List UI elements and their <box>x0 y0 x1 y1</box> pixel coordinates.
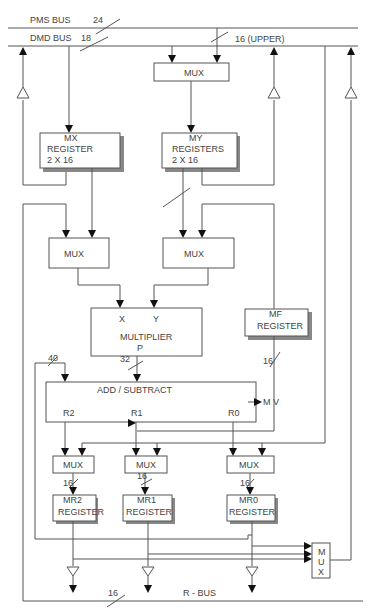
svg-text:MR0: MR0 <box>239 495 258 505</box>
dmd-bus: DMD BUS 18 16 (UPPER) <box>8 32 358 51</box>
svg-text:Y: Y <box>153 314 159 324</box>
dmd-bus-label: DMD BUS <box>30 33 72 43</box>
svg-text:M: M <box>318 547 326 557</box>
svg-text:MF: MF <box>269 309 282 319</box>
dmd-bus-width: 18 <box>81 33 91 43</box>
svg-text:X: X <box>119 314 125 324</box>
svg-text:M V: M V <box>263 397 279 407</box>
my-register: MY REGISTERS 2 X 16 <box>162 133 240 172</box>
svg-text:MUX: MUX <box>63 460 83 470</box>
svg-text:32: 32 <box>120 354 130 364</box>
mr0-register: MR0 REGISTER <box>227 495 278 524</box>
pms-bus-label: PMS BUS <box>30 15 71 25</box>
upper-label: 16 (UPPER) <box>235 34 285 44</box>
svg-text:16: 16 <box>137 471 147 481</box>
mr2-register: MR2 REGISTER <box>53 495 105 524</box>
svg-text:P: P <box>137 343 143 353</box>
svg-text:REGISTERS: REGISTERS <box>172 144 224 154</box>
svg-text:REGISTER: REGISTER <box>257 321 304 331</box>
mr1-register: MR1 REGISTER <box>123 495 175 524</box>
svg-text:X: X <box>318 567 324 577</box>
pms-bus: PMS BUS 24 <box>8 15 358 34</box>
svg-text:MUX: MUX <box>64 249 84 259</box>
svg-text:MX: MX <box>64 133 78 143</box>
svg-text:R0: R0 <box>228 408 240 418</box>
svg-text:REGISTER: REGISTER <box>126 507 173 517</box>
mf-register: MF REGISTER <box>245 309 312 340</box>
svg-text:MUX: MUX <box>239 460 259 470</box>
mux-y: MUX <box>163 238 234 268</box>
mux-x: MUX <box>49 238 109 268</box>
top-mux: MUX <box>154 63 229 81</box>
multiplier: X Y MULTIPLIER P <box>91 308 202 356</box>
svg-text:MY: MY <box>189 133 203 143</box>
svg-text:16: 16 <box>108 588 118 598</box>
arrow-up-icon <box>19 47 27 55</box>
svg-text:R1: R1 <box>131 408 143 418</box>
mux-mr2: MUX <box>53 456 94 473</box>
svg-text:REGISTER: REGISTER <box>58 507 105 517</box>
svg-text:R2: R2 <box>63 408 75 418</box>
add-subtract: ADD / SUBTRACT R2 R1 R0 M V <box>46 382 279 422</box>
svg-text:MUX: MUX <box>184 68 204 78</box>
mac-block-diagram: PMS BUS 24 DMD BUS 18 16 (UPPER) MUX MX … <box>0 0 374 614</box>
pms-bus-width: 24 <box>93 15 103 25</box>
svg-text:16: 16 <box>240 478 250 488</box>
svg-text:MULTIPLIER: MULTIPLIER <box>120 332 173 342</box>
svg-text:16: 16 <box>63 478 73 488</box>
mux-mr0: MUX <box>227 456 274 473</box>
arrow-down-icon <box>65 125 73 133</box>
svg-text:U: U <box>318 557 325 567</box>
svg-text:2 X 16: 2 X 16 <box>47 155 73 165</box>
svg-text:MUX: MUX <box>136 460 156 470</box>
svg-text:2 X 16: 2 X 16 <box>172 155 198 165</box>
svg-text:REGISTER: REGISTER <box>47 144 94 154</box>
svg-text:MUX: MUX <box>184 249 204 259</box>
svg-text:ADD / SUBTRACT: ADD / SUBTRACT <box>97 385 173 395</box>
svg-text:MR1: MR1 <box>137 495 156 505</box>
output-mux: M U X <box>312 543 330 578</box>
svg-text:R - BUS: R - BUS <box>183 588 216 598</box>
svg-text:REGISTER: REGISTER <box>229 507 276 517</box>
buffer-up-icon <box>17 87 29 98</box>
mx-register: MX REGISTER 2 X 16 <box>40 133 124 172</box>
svg-text:MR2: MR2 <box>63 495 82 505</box>
